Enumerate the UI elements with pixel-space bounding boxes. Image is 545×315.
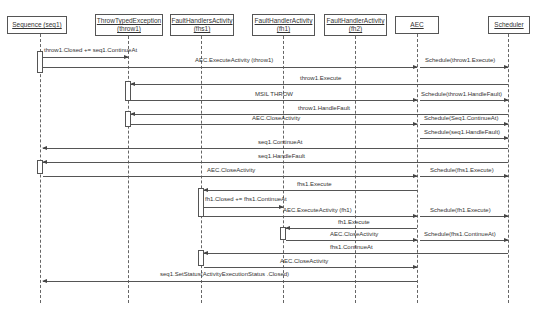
message-arrow <box>420 124 508 125</box>
message-arrow <box>420 216 508 217</box>
activation-bar <box>37 51 43 73</box>
message-label: seq1.SetStatus(ActivityExecutionStatus .… <box>160 271 289 278</box>
message-label: seq1.ContinueAt <box>258 139 302 146</box>
message-arrow <box>43 162 508 163</box>
actor-label: Sequence (seq1) <box>12 21 62 29</box>
message-label: AEC.CloseActivity <box>330 231 378 238</box>
message-arrow <box>43 281 417 282</box>
message-arrow <box>420 240 508 241</box>
message-label: MSIL THROW <box>255 91 293 98</box>
message-arrow <box>204 216 417 217</box>
message-label: fhs1.ContinueAt <box>330 244 373 251</box>
message-arrow <box>204 207 283 208</box>
actor-Scheduler: Scheduler <box>488 16 530 34</box>
actor-label-sub: (fh2) <box>327 25 385 33</box>
message-label: Schedule(fhs1.Execute) <box>430 167 494 174</box>
message-arrow <box>43 57 128 58</box>
message-label: AEC.CloseActivity <box>252 115 300 122</box>
message-arrow <box>204 253 508 254</box>
sequence-diagram: Sequence (seq1)ThrowTypedException(throw… <box>0 0 545 315</box>
message-label: AEC.CloseActivity <box>207 167 255 174</box>
lifeline-throw1 <box>128 36 129 303</box>
actor-label: FaultHandlerActivity <box>255 17 313 25</box>
message-arrow <box>420 100 508 101</box>
message-label: fhs1.Execute <box>297 181 332 188</box>
message-label: Schedule(fhs1.ContinueAt) <box>424 231 496 238</box>
message-label: AEC.CloseActivity <box>280 258 328 265</box>
message-label: AEC.ExecuteActivity (fh1) <box>283 207 352 214</box>
message-label: throw1.Closed += seq1.ContinueAt <box>44 47 137 54</box>
actor-label: ThrowTypedException <box>97 17 161 25</box>
actor-fhs1: FaultHandlersActivity(fhs1) <box>170 14 234 36</box>
message-label: AEC.ExecuteActivity (throw1) <box>195 57 273 64</box>
message-arrow <box>204 267 417 268</box>
message-label: throw1.Execute <box>300 75 341 82</box>
message-label: Schedule(throw1.Execute) <box>425 57 495 64</box>
actor-throw1: ThrowTypedException(throw1) <box>95 14 163 36</box>
actor-label: FaultHandlersActivity <box>171 17 232 25</box>
message-label: Schedule(fh1.Execute) <box>430 207 491 214</box>
actor-label: AEC <box>410 21 423 29</box>
message-label: seq1.HandleFault <box>258 153 305 160</box>
actor-label-sub: (fhs1) <box>171 25 232 33</box>
actor-seq1: Sequence (seq1) <box>7 16 67 34</box>
lifeline-fh2 <box>355 36 356 303</box>
message-arrow <box>420 67 508 68</box>
actor-fh1: FaultHandlerActivity(fh1) <box>252 14 315 36</box>
message-arrow <box>131 124 417 125</box>
message-arrow <box>43 148 508 149</box>
message-arrow <box>43 67 417 68</box>
lifeline-Scheduler <box>508 34 509 303</box>
actor-label: Scheduler <box>494 21 523 29</box>
message-arrow <box>420 176 508 177</box>
actor-AEC: AEC <box>395 16 439 34</box>
message-label: Schedule(Seq1.ContinueAt) <box>424 115 498 122</box>
message-arrow <box>286 228 417 229</box>
actor-label: FaultHandlerActivity <box>327 17 385 25</box>
actor-fh2: FaultHandlerActivity(fh2) <box>324 14 387 36</box>
message-label: Schedule(throw1.HandleFault) <box>421 91 502 98</box>
lifeline-AEC <box>417 34 418 303</box>
message-label: fh1.Execute <box>338 219 370 226</box>
message-label: throw1.HandleFault <box>298 105 350 112</box>
actor-label-sub: (throw1) <box>97 25 161 33</box>
message-arrow <box>43 176 417 177</box>
message-label: fh1.Closed += fhs1.ContinueAt <box>205 196 287 203</box>
message-arrow <box>131 84 508 85</box>
message-arrow <box>204 190 417 191</box>
message-label: Schedule(seq1.HandleFault) <box>424 129 500 136</box>
message-arrow <box>131 100 417 101</box>
message-arrow <box>286 240 417 241</box>
actor-label-sub: (fh1) <box>255 25 313 33</box>
message-arrow <box>420 138 508 139</box>
activation-bar <box>198 188 204 217</box>
